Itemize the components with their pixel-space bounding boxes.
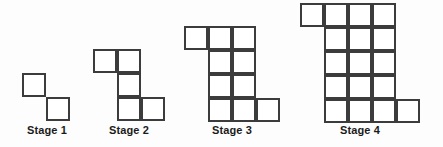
square-tile — [117, 49, 141, 73]
square-tile — [372, 51, 396, 75]
stage-3-shape — [184, 26, 280, 122]
square-tile — [46, 97, 70, 121]
square-tile — [372, 3, 396, 27]
square-tile — [324, 75, 348, 99]
square-tile — [324, 3, 348, 27]
square-tile — [324, 99, 348, 123]
stage-4-shape — [300, 3, 420, 123]
square-tile — [348, 75, 372, 99]
square-tile — [208, 98, 232, 122]
square-tile — [372, 27, 396, 51]
square-tile — [324, 51, 348, 75]
square-tile — [372, 75, 396, 99]
square-tile — [141, 97, 165, 121]
square-tile — [348, 3, 372, 27]
square-tile — [232, 98, 256, 122]
stage-4-label: Stage 4 — [300, 124, 420, 137]
square-tile — [208, 50, 232, 74]
stage-2-shape — [93, 49, 165, 121]
stage-3-label: Stage 3 — [184, 124, 280, 137]
square-tile — [117, 73, 141, 97]
square-tile — [300, 3, 324, 27]
square-tile — [256, 98, 280, 122]
square-tile — [184, 26, 208, 50]
square-tile — [372, 99, 396, 123]
stage-1-shape — [22, 73, 70, 121]
stage-1-label: Stage 1 — [22, 124, 72, 137]
square-tile — [93, 49, 117, 73]
square-tile — [232, 26, 256, 50]
square-tile — [22, 73, 46, 97]
square-tile — [232, 74, 256, 98]
pattern-figure: Stage 1Stage 2Stage 3Stage 4 — [0, 0, 443, 147]
square-tile — [348, 51, 372, 75]
square-tile — [232, 50, 256, 74]
square-tile — [324, 27, 348, 51]
square-tile — [117, 97, 141, 121]
square-tile — [348, 99, 372, 123]
square-tile — [208, 74, 232, 98]
stage-2-label: Stage 2 — [93, 124, 165, 137]
square-tile — [396, 99, 420, 123]
square-tile — [208, 26, 232, 50]
square-tile — [348, 27, 372, 51]
